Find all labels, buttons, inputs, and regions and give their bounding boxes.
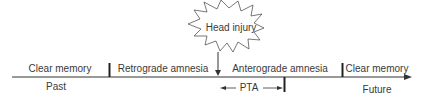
- event-label: Head injury: [206, 22, 257, 34]
- injury-arrow: [215, 52, 221, 76]
- axis-start-label: Past: [46, 81, 66, 93]
- segment-label-clear-memory-future: Clear memory: [346, 63, 409, 75]
- pta-label: PTA: [240, 82, 259, 94]
- axis-end-label: Future: [363, 84, 392, 96]
- segment-label-retrograde: Retrograde amnesia: [118, 63, 209, 75]
- segment-label-anterograde: Anterograde amnesia: [232, 63, 328, 75]
- segment-label-clear-memory-past: Clear memory: [29, 63, 92, 75]
- amnesia-timeline-diagram: Head injury Clear memory Retrograde amne…: [0, 0, 424, 100]
